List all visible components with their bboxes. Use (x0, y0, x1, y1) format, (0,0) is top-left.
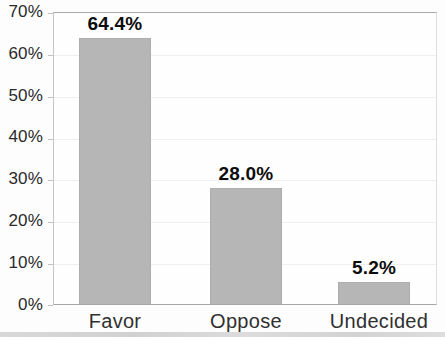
bar-oppose (210, 188, 282, 304)
y-axis-tick-label: 60% (0, 45, 43, 63)
y-axis-tick (48, 55, 53, 56)
y-axis-tick (48, 13, 53, 14)
bar-group-undecided: 5.2% (338, 13, 410, 304)
bar-value-label: 28.0% (219, 163, 274, 185)
bar-group-favor: 64.4% (79, 13, 151, 304)
y-axis-tick (48, 305, 53, 306)
x-axis-category-label: Favor (89, 310, 142, 333)
y-axis-tick (48, 97, 53, 98)
y-axis-tick (48, 264, 53, 265)
x-axis-category-label: Oppose (210, 310, 282, 333)
x-axis-category-label: Undecided (330, 310, 428, 333)
bar-undecided (338, 282, 410, 304)
y-axis-tick-label: 50% (0, 87, 43, 105)
y-axis-tick-label: 40% (0, 128, 43, 146)
scan-artifact-bottom-edge (0, 332, 445, 337)
y-axis-tick-label: 70% (0, 3, 43, 21)
bar-value-label: 64.4% (88, 13, 143, 35)
bar-favor (79, 38, 151, 304)
y-axis-tick (48, 180, 53, 181)
survey-bar-chart-page: 70% 60% 50% 40% 30% 20% 10% 0% (0, 0, 445, 337)
y-axis-tick-label: 0% (0, 296, 43, 314)
y-axis-tick (48, 222, 53, 223)
bar-group-oppose: 28.0% (210, 13, 282, 304)
y-axis-tick (48, 139, 53, 140)
plot-area: 64.4% 28.0% 5.2% (53, 12, 437, 305)
y-axis-tick-label: 20% (0, 212, 43, 230)
bar-chart: 70% 60% 50% 40% 30% 20% 10% 0% (0, 0, 445, 337)
bar-value-label: 5.2% (352, 257, 396, 279)
y-axis-tick-label: 10% (0, 254, 43, 272)
y-axis-tick-label: 30% (0, 170, 43, 188)
